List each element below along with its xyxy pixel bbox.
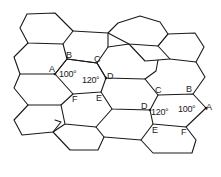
- right-vertex-E-label: E: [152, 126, 158, 135]
- left-angle-D: 120°: [82, 76, 99, 85]
- left-angle-A: 100°: [59, 70, 76, 79]
- right-vertex-C-label: C: [155, 86, 162, 95]
- left-vertex-A-label: A: [49, 65, 55, 74]
- right-angle-D: 120°: [151, 108, 168, 117]
- hexagon-network-diagram: A B C D E F 100° 120° C B A F E D 120° 1…: [0, 0, 221, 177]
- right-angle-A: 100°: [178, 105, 195, 114]
- left-vertex-F-label: F: [72, 95, 78, 104]
- left-vertex-C-label: C: [94, 55, 101, 64]
- right-vertex-A-label: A: [206, 103, 212, 112]
- right-vertex-D-label: D: [141, 102, 148, 111]
- right-vertex-B-label: B: [186, 85, 192, 94]
- left-vertex-D-label: D: [107, 72, 114, 81]
- left-vertex-B-label: B: [66, 51, 72, 60]
- left-vertex-E-label: E: [96, 94, 102, 103]
- right-vertex-F-label: F: [181, 128, 187, 137]
